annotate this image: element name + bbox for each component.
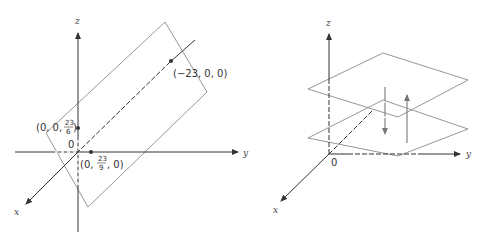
y-intercept-label: (0, 23 9 , 0) [80,155,124,172]
svg-text:23: 23 [98,155,107,163]
x-axis-label: x [14,207,19,217]
x-axis-hidden [329,111,372,154]
svg-text:, 0): , 0) [107,159,124,170]
svg-text:6: 6 [66,128,71,136]
y-axis-label: y [242,148,249,158]
z-axis-label: z [74,16,80,26]
plane-rectangle [46,22,207,207]
point-y-intercept [89,150,93,154]
svg-text:(0,: (0, [80,159,93,170]
z-axis-label: z [325,18,331,28]
top-plane [308,53,468,117]
x-axis-hidden [78,62,170,152]
x-axis [26,152,78,204]
bottom-plane [308,100,468,156]
point-x-intercept [169,59,173,63]
x-intercept-label: (−23, 0, 0) [173,68,227,79]
x-axis-back [170,40,195,62]
z-intercept-label: (0, 0, 23 6 ) [36,119,77,136]
figure-canvas: z y x 0 (−23, 0, 0) (0, 0, 23 6 ) (0, 23 [0,0,481,241]
left-diagram: z y x 0 (−23, 0, 0) (0, 0, 23 6 ) (0, 23 [14,16,249,232]
origin-label-right: 0 [331,157,337,168]
y-axis-label: y [465,149,472,159]
svg-text:9: 9 [99,164,103,172]
x-axis [281,154,329,201]
right-diagram: z y x 0 [273,18,472,215]
svg-text:): ) [73,122,77,133]
origin-label: 0 [68,139,74,150]
svg-text:(0, 0,: (0, 0, [36,122,62,133]
x-axis-label: x [273,205,278,215]
